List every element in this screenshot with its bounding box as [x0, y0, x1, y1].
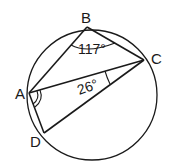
segment-da: [29, 93, 44, 133]
segment-cd: [44, 60, 144, 133]
vertex-label-a: A: [15, 85, 25, 102]
angle-arc-a-inner: [33, 91, 38, 104]
vertex-label-d: D: [30, 133, 41, 150]
angle-label-b: 117°: [78, 41, 106, 57]
angle-arc-c: [105, 71, 110, 84]
geometry-diagram: B C A D 117° 26°: [0, 0, 171, 162]
angle-arc-a-outer: [35, 90, 41, 107]
vertex-label-c: C: [151, 50, 162, 67]
vertex-label-b: B: [81, 9, 91, 26]
